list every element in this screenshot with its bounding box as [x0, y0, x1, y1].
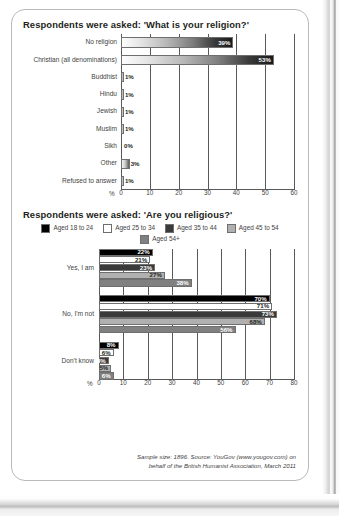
- bar-value-label: 71%: [257, 303, 269, 309]
- bar-value-label: 38%: [176, 280, 188, 286]
- x-tick-label: 0: [97, 380, 101, 386]
- x-tick-label: 20: [175, 190, 182, 196]
- legend-label: Aged 18 to 24: [53, 225, 93, 231]
- legend-swatch: [103, 224, 112, 233]
- chart2-legend: Aged 18 to 24Aged 25 to 34Aged 35 to 44A…: [23, 224, 297, 246]
- bar-value-label: 1%: [125, 92, 134, 98]
- footnote-line-2: behalf of the British Humanist Associati…: [104, 461, 296, 470]
- x-tick-label: 30: [204, 190, 211, 196]
- category-label: Other: [23, 160, 117, 167]
- bar-value-label: 70%: [254, 296, 266, 302]
- bar: 8%: [99, 342, 119, 349]
- legend-item[interactable]: Aged 45 to 54: [227, 224, 279, 233]
- bar: 22%: [99, 249, 153, 256]
- page-fold-right: [322, 0, 339, 516]
- source-footnote: Sample size: 1896. Source: YouGov (www.y…: [104, 452, 296, 470]
- bar-value-label: 0%: [124, 143, 133, 149]
- bar: 38%: [99, 279, 192, 286]
- x-tick-label: 0: [119, 190, 123, 196]
- x-tick-label: 40: [193, 380, 200, 386]
- bar: 23%: [99, 264, 155, 271]
- x-tick-label: 40: [233, 190, 240, 196]
- bar: 39%: [121, 37, 233, 47]
- bar-value-label: 3%: [131, 161, 140, 167]
- bar: 68%: [99, 318, 265, 325]
- category-label: Yes, I am: [23, 265, 94, 272]
- x-tick-label: 10: [120, 380, 127, 386]
- chart2-title: Respondents were asked: 'Are you religio…: [23, 209, 297, 220]
- x-tick-label: 50: [262, 190, 269, 196]
- chart2-x-axis: %01020304050607080: [99, 380, 294, 390]
- category-label: Don't know: [23, 358, 94, 365]
- chart1-title: Respondents were asked: 'What is your re…: [23, 19, 297, 30]
- legend-swatch: [41, 224, 50, 233]
- legend-label: Aged 45 to 54: [239, 225, 279, 231]
- category-label: Buddhist: [23, 74, 117, 81]
- religious-chart: Respondents were asked: 'Are you religio…: [23, 209, 297, 391]
- bar-value-label: 56%: [220, 326, 232, 332]
- x-tick-label: 20: [144, 380, 151, 386]
- category-label: Christian (all denominations): [23, 57, 117, 64]
- x-tick-label: 10: [146, 190, 153, 196]
- bar: 1%: [121, 107, 124, 117]
- bar: 1%: [121, 89, 124, 99]
- bar: 53%: [121, 55, 274, 65]
- legend-item[interactable]: Aged 18 to 24: [41, 224, 93, 233]
- chart1-plot-area: No religion39%Christian (all denominatio…: [121, 34, 294, 190]
- x-tick-label: 60: [242, 380, 249, 386]
- legend-item[interactable]: Aged 25 to 34: [103, 224, 155, 233]
- bar-value-label: 1%: [125, 74, 134, 80]
- x-axis-unit: %: [87, 381, 93, 387]
- bar: 3%: [121, 159, 130, 169]
- bar-value-label: 6%: [102, 373, 111, 379]
- gridline-80: [294, 249, 295, 381]
- chart1-x-axis: %0102030405060: [121, 190, 294, 200]
- bar: 73%: [99, 311, 277, 318]
- bar: 1%: [121, 124, 124, 134]
- legend-item[interactable]: Aged 35 to 44: [165, 224, 217, 233]
- bar-value-label: 27%: [150, 272, 162, 278]
- bar: 1%: [121, 176, 124, 186]
- footnote-line-1: Sample size: 1896. Source: YouGov (www.y…: [104, 452, 296, 461]
- bar-value-label: 21%: [135, 257, 147, 263]
- bar-value-label: 39%: [218, 40, 230, 46]
- x-tick-label: 30: [169, 380, 176, 386]
- x-axis-unit: %: [109, 191, 115, 197]
- x-tick-label: 50: [217, 380, 224, 386]
- legend-label: Aged 25 to 34: [115, 225, 155, 231]
- bar-value-label: 1%: [125, 126, 134, 132]
- religion-chart: Respondents were asked: 'What is your re…: [23, 19, 297, 200]
- legend-swatch: [140, 235, 149, 244]
- content-card: Respondents were asked: 'What is your re…: [11, 9, 309, 481]
- bar-value-label: 5%: [99, 365, 108, 371]
- bar: 5%: [99, 365, 111, 372]
- bar-value-label: 1%: [125, 178, 134, 184]
- legend-item[interactable]: Aged 54+: [140, 235, 180, 244]
- bar-value-label: 1%: [125, 109, 134, 115]
- bar-value-label: 68%: [250, 319, 262, 325]
- bar-value-label: 23%: [140, 265, 152, 271]
- bar: 56%: [99, 326, 236, 333]
- bar-value-label: 22%: [137, 249, 149, 255]
- gridline-60: [294, 34, 295, 190]
- bar: 21%: [99, 256, 150, 263]
- bar: 71%: [99, 303, 272, 310]
- bar: 1%: [121, 72, 124, 82]
- page-fold-bottom: [0, 494, 339, 516]
- category-label: Refused to answer: [23, 178, 117, 185]
- bar: 4%: [99, 357, 109, 364]
- category-label: No, I'm not: [23, 311, 94, 318]
- bar-value-label: 6%: [102, 350, 111, 356]
- bar-value-label: 73%: [262, 311, 274, 317]
- category-label: Sikh: [23, 143, 117, 150]
- category-label: Muslim: [23, 126, 117, 133]
- x-tick-label: 80: [290, 380, 297, 386]
- x-tick-label: 60: [290, 190, 297, 196]
- bar-value-label: 4%: [97, 358, 106, 364]
- bar-value-label: 53%: [259, 57, 271, 63]
- legend-label: Aged 35 to 44: [177, 225, 217, 231]
- bar: 70%: [99, 295, 270, 302]
- category-label: No religion: [23, 39, 117, 46]
- category-label: Jewish: [23, 108, 117, 115]
- category-label: Hindu: [23, 91, 117, 98]
